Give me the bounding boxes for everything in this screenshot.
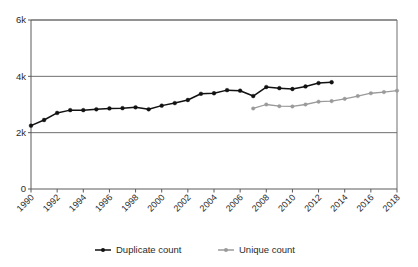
- data-point: [42, 118, 46, 122]
- xtick-label-1996: 1996: [93, 192, 114, 213]
- data-point: [68, 108, 72, 112]
- data-point: [343, 97, 347, 101]
- data-point: [304, 103, 308, 107]
- y-axis-tick-labels: 02k4k6k: [16, 14, 31, 194]
- xtick-label-2006: 2006: [224, 192, 245, 213]
- xtick-label-1990: 1990: [15, 192, 36, 213]
- data-point: [199, 92, 203, 96]
- data-point: [317, 81, 321, 85]
- data-point: [330, 99, 334, 103]
- data-point: [264, 103, 268, 107]
- data-point: [29, 124, 33, 128]
- x-axis-tick-labels: 1990199219941996199820002002200420062008…: [15, 192, 402, 213]
- legend-marker: [224, 248, 228, 252]
- data-point: [264, 85, 268, 89]
- data-point: [251, 107, 255, 111]
- legend-label: Unique count: [239, 244, 295, 255]
- chart-container: 02k4k6k 19901992199419961998200020022004…: [0, 0, 418, 267]
- data-point: [212, 91, 216, 95]
- ytick-label-0: 0: [21, 183, 26, 194]
- data-point: [356, 94, 360, 98]
- data-point: [278, 104, 282, 108]
- xtick-label-2016: 2016: [355, 192, 376, 213]
- plot-background: [31, 20, 397, 189]
- data-point: [395, 89, 399, 93]
- chart-legend: Duplicate countUnique count: [95, 244, 295, 255]
- xtick-label-2002: 2002: [172, 192, 193, 213]
- xtick-label-2014: 2014: [328, 192, 349, 213]
- data-point: [108, 107, 112, 111]
- xtick-label-2018: 2018: [381, 192, 402, 213]
- data-point: [186, 98, 190, 102]
- data-point: [147, 107, 151, 111]
- data-point: [121, 106, 125, 110]
- ytick-label-2k: 2k: [16, 127, 26, 138]
- data-point: [251, 94, 255, 98]
- xtick-label-2010: 2010: [276, 192, 297, 213]
- xtick-label-2000: 2000: [145, 192, 166, 213]
- legend-item-unique-count[interactable]: Unique count: [218, 244, 295, 255]
- xtick-label-2008: 2008: [250, 192, 271, 213]
- data-point: [81, 108, 85, 112]
- legend-label: Duplicate count: [116, 244, 182, 255]
- data-point: [291, 87, 295, 91]
- data-point: [277, 86, 281, 90]
- legend-item-duplicate-count[interactable]: Duplicate count: [95, 244, 182, 255]
- xtick-label-1998: 1998: [119, 192, 140, 213]
- data-point: [369, 91, 373, 95]
- legend-marker: [101, 248, 105, 252]
- data-point: [55, 111, 59, 115]
- data-point: [94, 107, 98, 111]
- data-point: [330, 80, 334, 84]
- ytick-label-4k: 4k: [16, 71, 26, 82]
- ytick-label-6k: 6k: [16, 14, 26, 25]
- data-point: [291, 105, 295, 109]
- xtick-label-1992: 1992: [41, 192, 62, 213]
- data-point: [238, 89, 242, 93]
- data-point: [173, 101, 177, 105]
- xtick-label-1994: 1994: [67, 192, 88, 213]
- data-point: [160, 104, 164, 108]
- line-chart: 02k4k6k 19901992199419961998200020022004…: [0, 0, 418, 267]
- data-point: [317, 100, 321, 104]
- data-point: [134, 105, 138, 109]
- xtick-label-2004: 2004: [198, 192, 219, 213]
- data-point: [304, 85, 308, 89]
- data-point: [225, 88, 229, 92]
- xtick-label-2012: 2012: [302, 192, 323, 213]
- data-point: [382, 90, 386, 94]
